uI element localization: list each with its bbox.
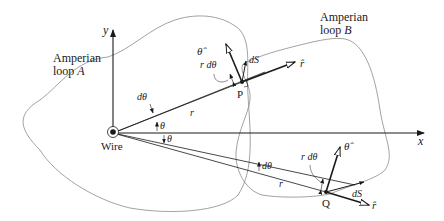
radial-line-lower-outer bbox=[113, 133, 355, 185]
r-dtheta-label-q: r dθ bbox=[301, 151, 317, 162]
loop-a-label-line2: loop A bbox=[53, 64, 85, 78]
theta-label-lower: θ bbox=[167, 133, 172, 144]
theta-label-upper: θ bbox=[160, 120, 165, 131]
wire-dot bbox=[110, 129, 116, 135]
y-axis-label: y bbox=[102, 23, 109, 37]
dtheta-label-lower: dθ bbox=[262, 160, 272, 171]
r-dtheta-leader-p bbox=[214, 74, 228, 82]
x-axis-label: x bbox=[417, 134, 424, 148]
point-p-dot bbox=[240, 80, 244, 84]
theta-hat-label-p: θ̂ bbox=[197, 45, 207, 57]
wire-label: Wire bbox=[101, 140, 123, 152]
point-q-dot bbox=[324, 190, 328, 194]
loop-b-label-line1: Amperian bbox=[320, 10, 368, 24]
r-label-lower: r bbox=[279, 178, 283, 189]
r-hat-label-q: r̂ bbox=[372, 199, 377, 211]
loop-b-label-line2: loop B bbox=[320, 23, 352, 37]
loop-a-label-line1: Amperian bbox=[53, 51, 101, 65]
radial-line-upper-r bbox=[113, 82, 242, 133]
r-label-upper: r bbox=[190, 107, 194, 118]
r-hat-label-p: r̂ bbox=[300, 57, 305, 69]
theta-hat-label-q: θ̂ bbox=[344, 140, 354, 152]
amperian-loops-diagram: y x Amperian loop A Amperian loop B Wire… bbox=[0, 0, 444, 221]
dtheta-label-upper: dθ bbox=[137, 91, 147, 102]
r-dtheta-leader-q bbox=[310, 165, 322, 183]
point-p-label: P bbox=[237, 88, 243, 100]
r-hat-vector-p bbox=[242, 62, 295, 82]
dtheta-leader-upper bbox=[150, 104, 153, 113]
radial-line-lower-r bbox=[113, 133, 326, 192]
r-dtheta-arrow-q bbox=[321, 179, 323, 190]
diagram-canvas: y x Amperian loop A Amperian loop B Wire… bbox=[0, 0, 444, 221]
amperian-loop-a bbox=[23, 16, 250, 212]
ds-label-p: dS⃗ bbox=[249, 54, 267, 65]
ds-label-q: dS⃗ bbox=[352, 188, 370, 199]
r-dtheta-label-p: r dθ bbox=[200, 59, 216, 70]
r-dtheta-arrow-p bbox=[230, 74, 233, 82]
theta-hat-vector-p bbox=[226, 44, 242, 82]
theta-hat-vector-q bbox=[326, 147, 340, 192]
point-q-label: Q bbox=[322, 197, 330, 209]
